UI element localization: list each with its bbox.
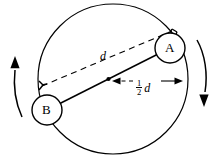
rod-midpoint-dot (106, 77, 110, 81)
half-d-left-arrow (112, 78, 133, 85)
right-rotation-arrow (197, 40, 209, 107)
half-separation-label: 1 2 d (136, 73, 150, 97)
diagram-canvas (0, 0, 220, 156)
orbit-circle (38, 4, 188, 154)
figure-container: A B d 1 2 d (0, 0, 220, 156)
tick-mark-b (39, 81, 47, 90)
left-rotation-arrow (10, 56, 22, 117)
half-separation-symbol: d (144, 82, 150, 94)
separation-label: d (100, 50, 106, 62)
body-b-label: B (42, 103, 51, 116)
half-fraction-denominator: 2 (136, 88, 142, 97)
half-fraction: 1 2 (136, 79, 142, 97)
body-a-label: A (165, 41, 174, 54)
half-d-right-arrow (161, 78, 183, 85)
